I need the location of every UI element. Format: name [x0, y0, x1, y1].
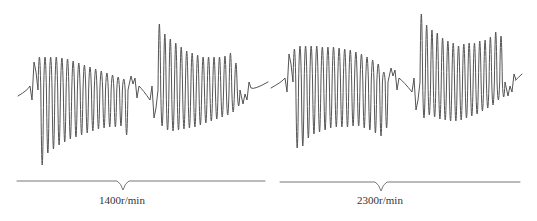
left-key-phase-timing-line	[17, 181, 265, 190]
left-waveform-trace	[18, 24, 268, 165]
right-speed-label: 2300r/min	[357, 194, 403, 206]
vibration-waveform-figure	[0, 0, 537, 221]
right-waveform-trace	[271, 14, 522, 148]
right-key-phase-timing-line	[280, 182, 520, 191]
left-panel	[17, 24, 268, 190]
right-panel	[271, 14, 522, 191]
left-speed-label: 1400r/min	[99, 194, 145, 206]
